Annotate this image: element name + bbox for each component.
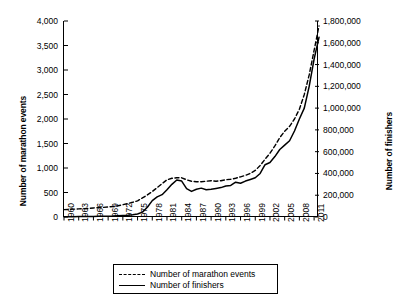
legend-item-label: Number of marathon events bbox=[150, 269, 255, 279]
x-axis-tick-label: 1966 bbox=[96, 203, 105, 222]
x-axis-tick-label: 1978 bbox=[155, 203, 164, 222]
y-axis-right-tick-label: 1,200,000 bbox=[323, 82, 361, 91]
x-axis-tick-label: 1990 bbox=[214, 203, 223, 222]
y-axis-right-tick-label: 1,600,000 bbox=[323, 39, 361, 48]
x-axis-tick-label: 1960 bbox=[67, 203, 76, 222]
x-axis-tick-label: 1984 bbox=[184, 203, 193, 222]
x-axis-tick-label: 2011 bbox=[317, 204, 326, 222]
y-axis-left-tick-label: 2,500 bbox=[37, 90, 58, 99]
y-axis-left-tick-label: 3,000 bbox=[37, 66, 58, 75]
plot-area bbox=[63, 21, 318, 217]
y-axis-right-tick-label: 400,000 bbox=[323, 169, 354, 178]
y-axis-left-tick-label: 2,000 bbox=[37, 115, 58, 124]
x-axis-tick-label: 1996 bbox=[243, 203, 252, 222]
solid-line-icon bbox=[119, 281, 145, 289]
y-axis-right-tick-label: 600,000 bbox=[323, 147, 354, 156]
y-axis-right-tick-label: 1,400,000 bbox=[323, 60, 361, 69]
dashed-line-icon bbox=[119, 270, 145, 278]
chart-figure: Number of marathon events Number of fini… bbox=[0, 0, 408, 301]
x-axis-tick-label: 2005 bbox=[287, 203, 296, 222]
x-axis-tick-label: 1969 bbox=[111, 203, 120, 222]
x-axis-tick-label: 1987 bbox=[199, 203, 208, 222]
y-axis-right-tick-label: 1,000,000 bbox=[323, 104, 361, 113]
y-axis-right-tick-label: 200,000 bbox=[323, 191, 354, 200]
x-axis-tick-label: 1993 bbox=[228, 203, 237, 222]
y-axis-left-tick-label: 500 bbox=[44, 188, 58, 197]
legend-item-label: Number of finishers bbox=[150, 280, 224, 290]
x-axis-tick-label: 1972 bbox=[125, 203, 134, 222]
chart-legend: Number of marathon eventsNumber of finis… bbox=[113, 264, 278, 294]
series-line bbox=[64, 26, 319, 210]
legend-item: Number of finishers bbox=[119, 279, 270, 290]
y-axis-left-tick-label: 4,000 bbox=[37, 17, 58, 26]
x-axis-tick-label: 1981 bbox=[169, 203, 178, 222]
x-axis-tick-label: 1963 bbox=[81, 203, 90, 222]
series-line bbox=[64, 37, 319, 216]
y-axis-left-tick-label: 3,500 bbox=[37, 41, 58, 50]
plot-lines bbox=[64, 21, 319, 217]
y-axis-left-tick-label: 1,500 bbox=[37, 139, 58, 148]
x-axis-tick-label: 2008 bbox=[302, 203, 311, 222]
y-axis-right-title: Number of finishers bbox=[384, 76, 394, 226]
x-axis-tick-label: 1975 bbox=[140, 203, 149, 222]
y-axis-left-title: Number of marathon events bbox=[18, 76, 28, 226]
x-axis-tick-label: 2002 bbox=[272, 203, 281, 222]
y-axis-right-tick-label: 1,800,000 bbox=[323, 17, 361, 26]
legend-item: Number of marathon events bbox=[119, 268, 270, 279]
y-axis-left-tick-label: 1,000 bbox=[37, 164, 58, 173]
y-axis-right-tick-label: 800,000 bbox=[323, 126, 354, 135]
x-axis-tick-label: 1999 bbox=[258, 203, 267, 222]
y-axis-left-tick-label: 0 bbox=[53, 213, 58, 222]
